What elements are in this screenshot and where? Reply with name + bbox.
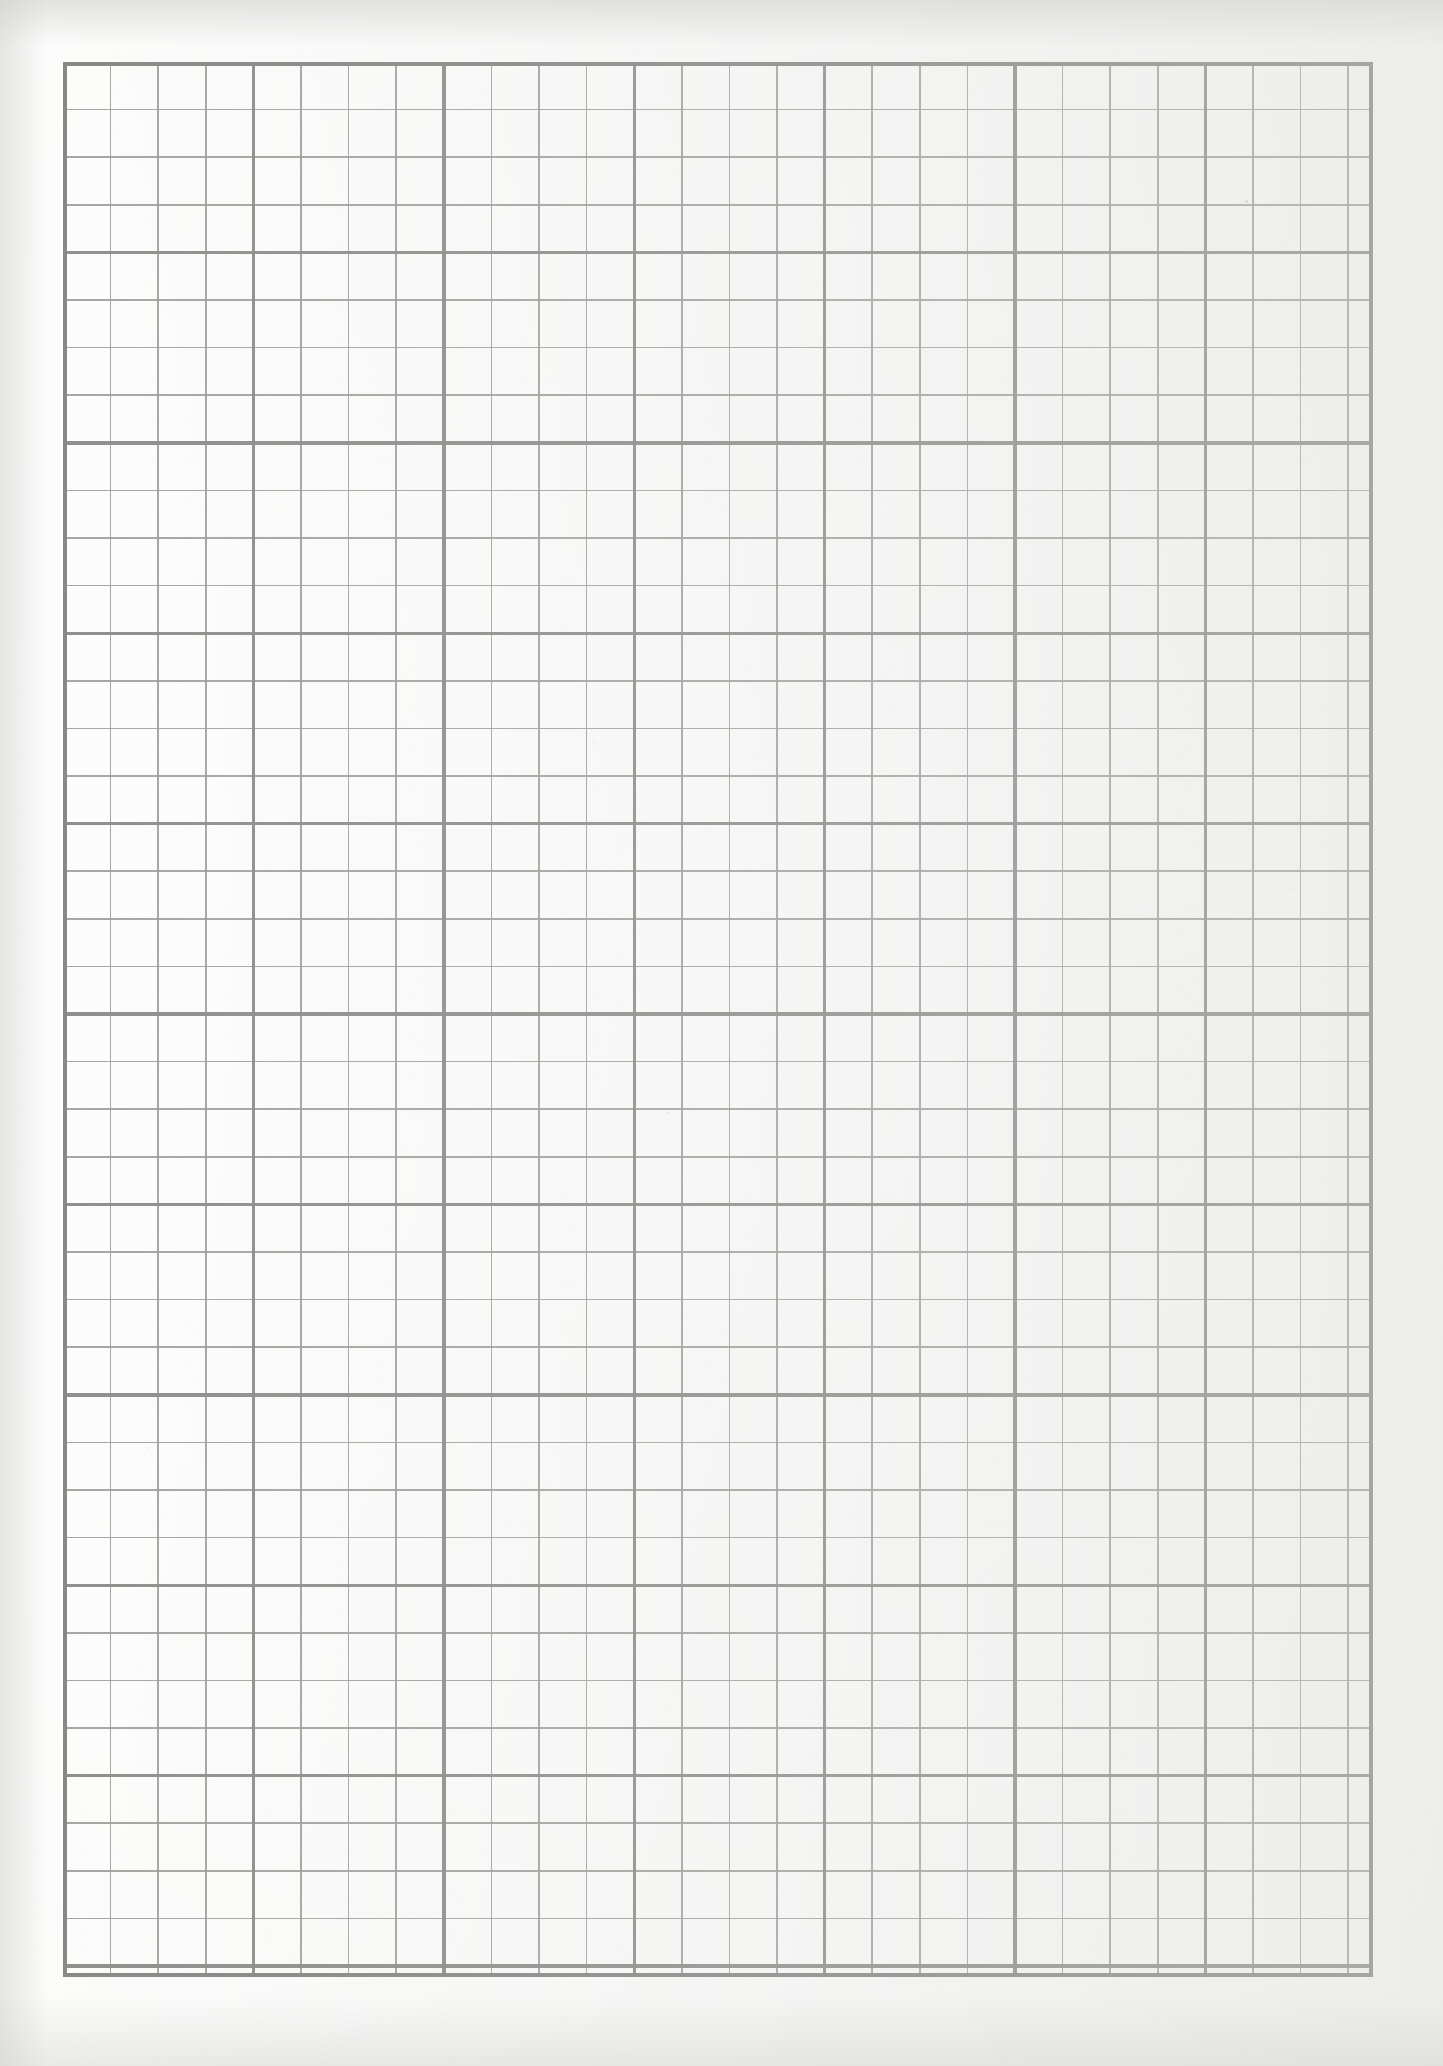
- graph-paper-grid: [63, 62, 1373, 1977]
- scanned-page: [0, 0, 1443, 2066]
- grid-svg: [63, 62, 1373, 1977]
- grid-border: [63, 62, 1373, 1977]
- major-gridlines: [63, 62, 1373, 1977]
- minor-gridlines: [63, 62, 1373, 1977]
